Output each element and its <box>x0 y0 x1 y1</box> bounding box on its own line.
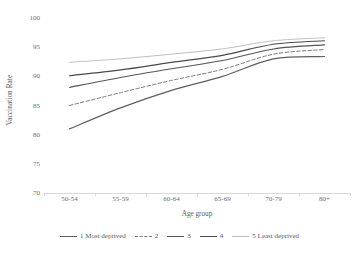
x-axis-title-label: Age group <box>182 210 213 218</box>
y-axis-tick-label: 85 <box>18 102 40 109</box>
y-axis-tick-label: 100 <box>18 15 40 22</box>
y-axis-tick-label: 95 <box>18 44 40 51</box>
legend-item-2[interactable]: 2 <box>135 233 159 240</box>
x-axis-tick-label: 60-64 <box>163 196 179 203</box>
plot-area <box>44 18 350 193</box>
y-axis-tick-label: 75 <box>18 160 40 167</box>
legend-label: 5 Least deprived <box>252 233 299 240</box>
legend-label: 2 <box>155 233 159 240</box>
x-axis-tickmark <box>350 193 351 196</box>
y-axis-tick-label: 80 <box>18 131 40 138</box>
legend-line-swatch <box>167 236 184 237</box>
x-axis-tickmark <box>197 193 198 196</box>
vaccination-rate-line-chart: Vaccination Rate 707580859095100 50-5455… <box>0 0 359 262</box>
y-axis-tick-label: 70 <box>18 190 40 197</box>
x-axis-tick-label: 70-79 <box>265 196 281 203</box>
legend-item-3[interactable]: 3 <box>167 233 191 240</box>
x-axis-tick-label: 55-59 <box>112 196 128 203</box>
legend-line-swatch <box>135 236 152 237</box>
series-line-2 <box>70 50 325 106</box>
legend-item-1[interactable]: 1 Most deprived <box>60 233 126 240</box>
legend-label: 4 <box>220 233 224 240</box>
series-line-1 <box>70 57 325 129</box>
chart-legend: 1 Most deprived2345 Least deprived <box>0 233 359 240</box>
x-axis-tickmark <box>44 193 45 196</box>
x-axis-tickmark <box>248 193 249 196</box>
legend-line-swatch <box>200 236 217 237</box>
legend-line-swatch <box>232 236 249 237</box>
x-axis-tickmark <box>95 193 96 196</box>
x-axis-title: Age group <box>44 210 350 218</box>
legend-item-4[interactable]: 4 <box>200 233 224 240</box>
x-axis-tick-label: 80+ <box>319 196 330 203</box>
y-axis-tick-labels: 707580859095100 <box>18 0 40 200</box>
y-axis-title: Vaccination Rate <box>0 0 20 200</box>
series-line-4 <box>70 41 325 76</box>
x-axis-tick-labels: 50-5455-5960-6465-6970-7980+ <box>44 196 350 210</box>
y-axis-title-label: Vaccination Rate <box>6 75 14 126</box>
x-axis-tick-label: 50-54 <box>61 196 77 203</box>
series-lines <box>44 18 350 193</box>
legend-label: 3 <box>187 233 191 240</box>
legend-line-swatch <box>60 236 77 237</box>
y-axis-tick-label: 90 <box>18 73 40 80</box>
legend-item-5[interactable]: 5 Least deprived <box>232 233 299 240</box>
series-line-3 <box>70 45 325 88</box>
legend-label: 1 Most deprived <box>80 233 126 240</box>
x-axis-tick-label: 65-69 <box>214 196 230 203</box>
x-axis-tickmark <box>146 193 147 196</box>
x-axis-tickmark <box>299 193 300 196</box>
